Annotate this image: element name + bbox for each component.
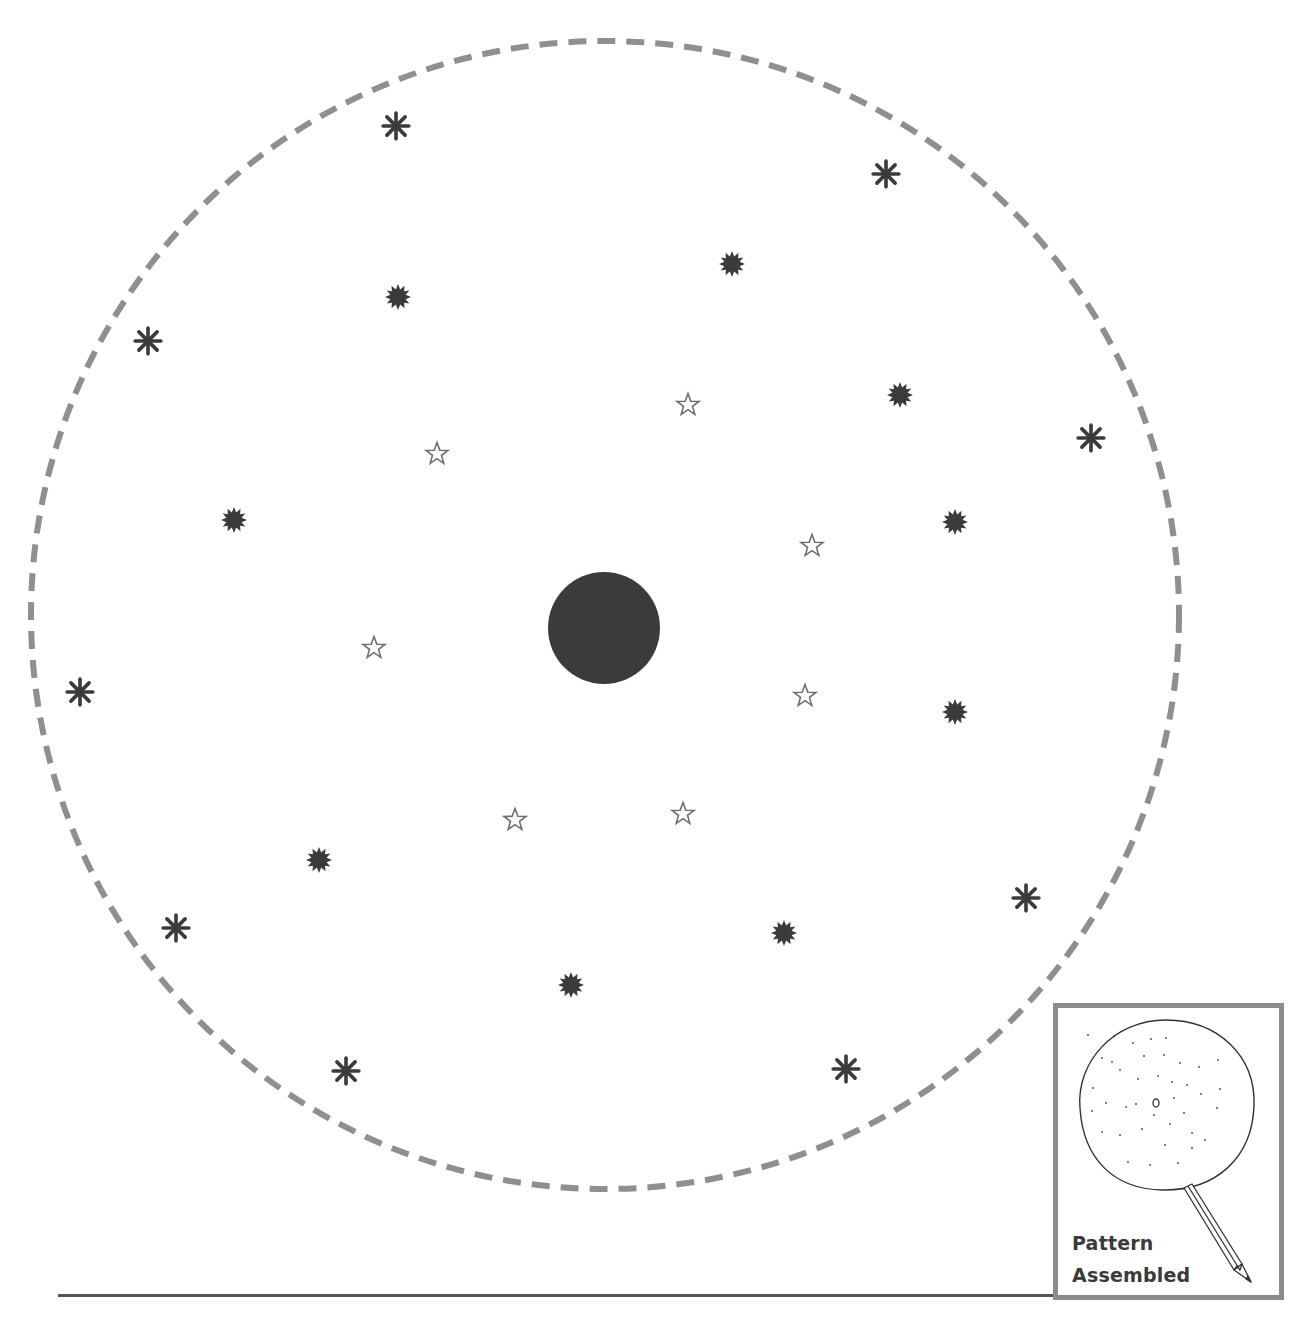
pencil-icon — [1184, 1184, 1251, 1282]
star-outline-icon — [426, 443, 448, 464]
star-outline-icon — [363, 637, 385, 658]
star-outline-icon — [794, 685, 816, 706]
asterisk-icon — [67, 679, 93, 705]
burst-icon — [942, 699, 968, 725]
burst-icon — [385, 284, 411, 310]
star-outline-icon — [504, 809, 526, 830]
inset-circle-outline — [1080, 1020, 1254, 1190]
star-outline-icon — [801, 535, 823, 556]
burst-icon — [719, 251, 745, 277]
inset-label-pattern: Pattern — [1072, 1232, 1154, 1254]
burst-icon — [942, 509, 968, 535]
pattern-assembled-inset: Pattern Assembled — [1053, 1003, 1284, 1300]
burst-icon — [221, 507, 247, 533]
center-dot — [548, 572, 660, 684]
burst-icon — [771, 920, 797, 946]
asterisk-icon — [383, 113, 409, 139]
burst-icon — [887, 382, 913, 408]
baseline-rule — [58, 1294, 1055, 1297]
asterisk-icon — [833, 1056, 859, 1082]
star-outline-icon — [672, 803, 694, 824]
star-outline-icon — [677, 394, 699, 415]
asterisk-icon — [1013, 885, 1039, 911]
burst-icon — [558, 972, 584, 998]
asterisk-icon — [1078, 425, 1104, 451]
asterisk-icon — [873, 161, 899, 187]
asterisk-icon — [163, 915, 189, 941]
burst-icon — [306, 847, 332, 873]
asterisk-icon — [333, 1058, 359, 1084]
asterisk-icon — [135, 328, 161, 354]
inset-label-assembled: Assembled — [1072, 1264, 1190, 1286]
